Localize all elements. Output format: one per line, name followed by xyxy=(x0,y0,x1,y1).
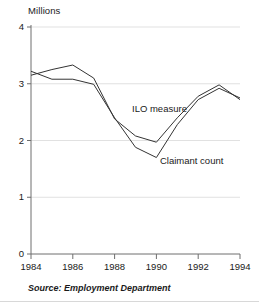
y-tick-3: 3 xyxy=(8,79,24,89)
series-annotation-ilo-measure: ILO measure xyxy=(132,103,187,114)
series-line-claimant-count xyxy=(31,71,240,157)
series-annotation-claimant-count: Claimant count xyxy=(160,155,223,166)
y-tick-2: 2 xyxy=(8,136,24,146)
unemployment-line-chart: Millions xyxy=(0,0,259,305)
y-tick-0: 0 xyxy=(8,249,24,259)
y-tick-4: 4 xyxy=(8,22,24,32)
x-tick-1988: 1988 xyxy=(100,262,130,272)
y-tick-1: 1 xyxy=(8,192,24,202)
x-tick-1984: 1984 xyxy=(16,262,46,272)
x-tick-1992: 1992 xyxy=(183,262,213,272)
chart-plot-area xyxy=(0,0,259,305)
x-tick-1990: 1990 xyxy=(141,262,171,272)
bottom-rule-divider xyxy=(0,301,259,302)
x-axis-ticks xyxy=(31,254,240,259)
y-axis-ticks xyxy=(27,27,31,254)
x-tick-1986: 1986 xyxy=(58,262,88,272)
x-tick-1994: 1994 xyxy=(225,262,255,272)
source-note: Source: Employment Department xyxy=(28,283,171,294)
